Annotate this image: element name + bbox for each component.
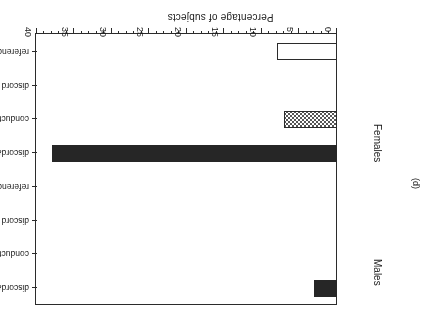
axis-tick-minor [314,31,315,34]
axis-tick-minor [51,31,52,34]
group-label: Males [372,260,383,287]
axis-tick-minor [194,31,195,34]
x-axis-title: Percentage of subjects [0,12,441,23]
category-label: conduct [0,114,29,124]
category-label: conduct [0,249,29,259]
axis-tick-minor [81,31,82,34]
category-tick [32,253,37,254]
axis-tick-minor [164,31,165,34]
bar [277,43,337,60]
axis-tick-major [224,28,225,34]
axis-tick-minor [306,31,307,34]
plot-area [35,33,337,305]
category-tick [32,51,37,52]
bar [285,111,338,128]
axis-tick-label: 0 [323,27,333,32]
axis-tick-major [36,28,37,34]
axis-tick-label: 30 [98,27,108,37]
axis-tick-minor [269,31,270,34]
axis-tick-minor [126,31,127,34]
category-label: discord&conduct [0,283,29,293]
axis-tick-major [336,28,337,34]
axis-tick-major [111,28,112,34]
axis-tick-minor [44,31,45,34]
group-label: Females [372,125,383,163]
category-label: discord&conduct [0,148,29,158]
axis-tick-minor [246,31,247,34]
axis-tick-minor [201,31,202,34]
category-label: discord [2,81,29,91]
axis-tick-label: 35 [61,27,71,37]
category-label: reference group [0,182,29,192]
category-tick [32,186,37,187]
axis-tick-label: 40 [23,27,33,37]
category-tick [32,287,37,288]
category-tick [32,85,37,86]
figure-panel: 0510152025303540 Percentage of subjects … [0,0,441,323]
axis-tick-minor [119,31,120,34]
axis-tick-minor [156,31,157,34]
category-label: discord [2,216,29,226]
category-tick [32,220,37,221]
axis-tick-label: 10 [248,27,258,37]
axis-tick-minor [96,31,97,34]
category-label: reference group [0,47,29,57]
axis-tick-major [186,28,187,34]
axis-tick-minor [171,31,172,34]
axis-tick-minor [231,31,232,34]
axis-tick-minor [239,31,240,34]
axis-tick-major [261,28,262,34]
axis-tick-major [149,28,150,34]
axis-tick-major [74,28,75,34]
axis-tick-minor [321,31,322,34]
axis-tick-major [299,28,300,34]
axis-tick-label: 20 [173,27,183,37]
bar [52,145,337,162]
axis-tick-label: 5 [286,27,296,32]
axis-tick-minor [89,31,90,34]
panel-label: (d) [411,178,421,189]
axis-tick-label: 25 [136,27,146,37]
axis-tick-minor [276,31,277,34]
axis-tick-label: 15 [211,27,221,37]
category-tick [32,152,37,153]
category-tick [32,118,37,119]
bar [315,280,338,297]
